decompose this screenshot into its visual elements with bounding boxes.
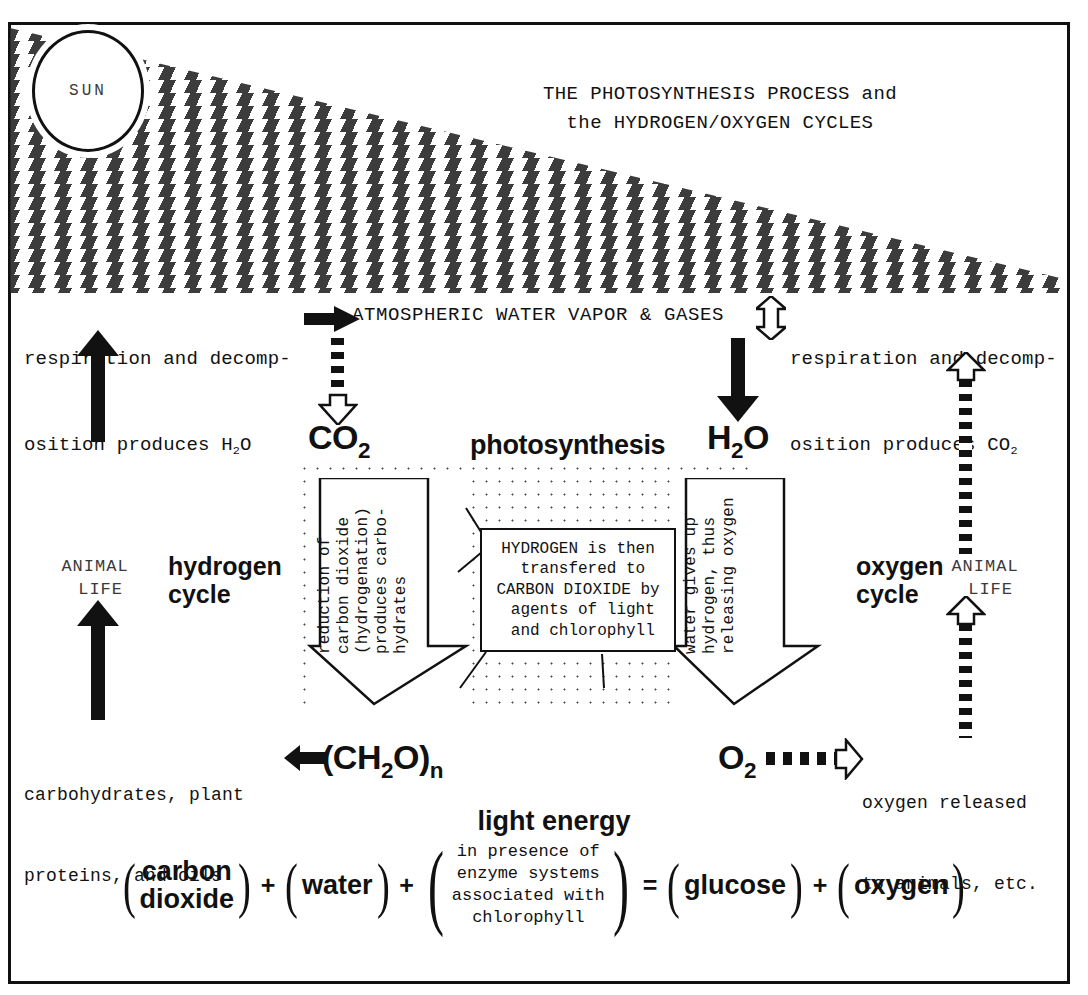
sun-label: SUN <box>69 82 107 100</box>
header-line-1: THE PHOTOSYNTHESIS PROCESS and <box>540 80 900 109</box>
respiration-left-line-1: respiration and decomp- <box>24 345 291 374</box>
respiration-left-caption: respiration and decomp- osition produces… <box>24 288 291 517</box>
respiration-right-line-1: respiration and decomp- <box>790 345 1057 374</box>
hydrogen-cycle-lower-arrowhead-icon <box>77 600 119 626</box>
o2-label: O2 <box>718 738 756 784</box>
term1-line-2: dioxide <box>140 885 235 913</box>
respiration-left-line-2: osition produces H2O <box>24 431 291 461</box>
h2o-arrow-shaft <box>731 338 745 400</box>
photosynthesis-equation: light energy ( carbon dioxide ) + ( wate… <box>0 806 1088 929</box>
o2-dotted-chain <box>766 752 838 765</box>
co2-dotted-chain <box>331 338 344 398</box>
term3-line-1: in presence of <box>452 841 605 863</box>
term4-line-1: glucose <box>684 871 786 899</box>
animal-life-left-label: ANIMAL LIFE <box>40 556 150 602</box>
equation-term-oxygen: ( oxygen ) <box>833 871 969 899</box>
hydrogen-cycle-upper-shaft <box>91 350 105 442</box>
hydrogen-transfer-callout: HYDROGEN is then transfered to CARBON DI… <box>480 528 676 652</box>
term5-line-1: oxygen <box>854 871 949 899</box>
respiration-right-hollow-arrow-icon <box>756 296 786 345</box>
atmosphere-band-label: ATMOSPHERIC WATER VAPOR & GASES <box>352 301 724 330</box>
equation-operator-4: + <box>809 871 832 900</box>
respiration-right-line-2: osition produces CO2 <box>790 431 1057 461</box>
term3-line-3: associated with <box>452 885 605 907</box>
equation-operator-1: + <box>257 871 280 900</box>
header-caption: THE PHOTOSYNTHESIS PROCESS and the HYDRO… <box>500 80 940 139</box>
sun-icon: SUN <box>32 30 144 152</box>
hydrogen-cycle-label: hydrogen cycle <box>168 552 282 608</box>
respiration-right-caption: respiration and decomp- osition produces… <box>790 288 1057 517</box>
equation-operator-2: + <box>395 871 418 900</box>
equation-term-glucose: ( glucose ) <box>663 871 806 899</box>
co2-label: CO2 <box>308 418 370 464</box>
oxygen-cycle-upper-chain <box>959 380 972 554</box>
hydrogen-cycle-lower-shaft <box>91 620 105 720</box>
hydrogenation-arrow-text: reduction of carbon dioxide (hydrogenati… <box>316 486 410 654</box>
o2-hollow-arrowhead-icon <box>834 738 864 785</box>
header-line-2: the HYDROGEN/OXYGEN CYCLES <box>564 109 877 138</box>
equation-term-water: ( water ) <box>281 871 393 899</box>
term1-line-1: carbon <box>140 857 235 885</box>
animal-life-right-label: ANIMAL LIFE <box>930 556 1040 602</box>
term3-line-2: enzyme systems <box>452 863 605 885</box>
page-title: PHOTOSYNTHESIS <box>0 0 1088 4</box>
equation-term-carbon-dioxide: ( carbon dioxide ) <box>119 857 255 914</box>
hydrogen-transfer-text: HYDROGEN is then transfered to CARBON DI… <box>496 539 659 641</box>
photosynthesis-label: photosynthesis <box>470 430 665 461</box>
term2-line-1: water <box>302 871 373 899</box>
diagram-canvas: PHOTOSYNTHESIS SUN THE PHOTOSYNTHESIS PR… <box>0 0 1088 995</box>
h2o-label: H2O <box>707 418 769 464</box>
light-energy-label: light energy <box>20 806 1088 837</box>
ch2o-label: (CH2O)n <box>322 738 443 784</box>
hydrogen-cycle-upper-arrowhead-icon <box>77 330 119 356</box>
equation-term-conditions: ( in presence of enzyme systems associat… <box>420 841 637 929</box>
equation-row: ( carbon dioxide ) + ( water ) + ( in pr… <box>0 841 1088 929</box>
respiration-to-atmosphere-arrow-icon <box>304 306 360 332</box>
equation-operator-3: = <box>639 871 662 900</box>
carbohydrate-line-1: carbohydrates, plant <box>24 782 244 809</box>
term3-line-4: chlorophyll <box>452 907 605 929</box>
oxygen-cycle-lower-chain <box>959 624 972 738</box>
